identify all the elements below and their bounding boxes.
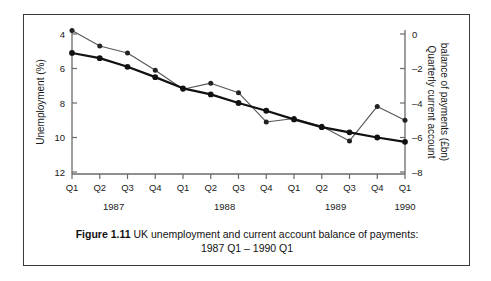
caption-subtitle: 1987 Q1 – 1990 Q1 bbox=[33, 242, 461, 256]
caption-label: Figure 1.11 bbox=[76, 228, 131, 240]
caption-text: UK unemployment and current account bala… bbox=[133, 228, 418, 240]
figure-caption: Figure 1.11 UK unemployment and current … bbox=[33, 228, 461, 255]
